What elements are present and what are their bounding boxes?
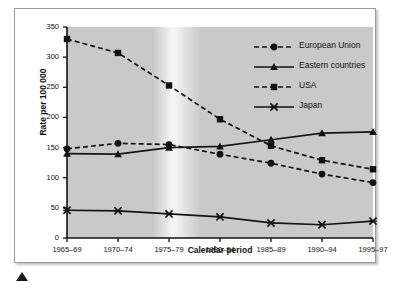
y-axis-tick-label: 200 [33, 112, 59, 121]
legend-marker-icon [253, 80, 295, 94]
legend-marker-icon [253, 60, 295, 74]
y-axis-title: Rate per 100 000 [38, 54, 48, 150]
x-axis-tick-label: 1990–94 [297, 245, 347, 254]
y-axis-tick-label: 350 [33, 22, 59, 31]
legend-item-japan[interactable]: Japan [253, 99, 373, 115]
legend-item-eastern-countries[interactable]: Eastern countries [253, 59, 373, 75]
legend-marker-icon [253, 40, 295, 54]
y-axis-tick-label: 250 [33, 82, 59, 91]
y-axis-tick-label: 0 [33, 233, 59, 242]
legend-item-european-union[interactable]: European Union [253, 39, 373, 55]
legend-label: USA [299, 80, 316, 90]
legend-marker-icon [253, 100, 295, 114]
plot-wrapper: Rate per 100 000 Calendar period 0501001… [15, 9, 377, 264]
x-axis-tick-label: 1965–69 [42, 245, 92, 254]
y-axis-tick-label: 50 [33, 203, 59, 212]
legend-label: European Union [299, 40, 360, 50]
x-axis-tick-label: 1980–84 [195, 245, 245, 254]
legend-item-usa[interactable]: USA [253, 79, 373, 95]
series-japan [63, 207, 377, 229]
y-axis-tick-label: 150 [33, 143, 59, 152]
y-axis-tick-label: 100 [33, 173, 59, 182]
figure-container: Rate per 100 000 Calendar period 0501001… [0, 0, 397, 293]
up-triangle-marker-icon [16, 272, 28, 281]
y-axis-tick-label: 300 [33, 52, 59, 61]
x-axis-tick-label: 1970–74 [93, 245, 143, 254]
x-axis-tick-label: 1985–89 [246, 245, 296, 254]
x-axis-tick-label: 1975–79 [144, 245, 194, 254]
chart-frame: Rate per 100 000 Calendar period 0501001… [14, 8, 376, 263]
x-axis-tick-label: 1995–97 [348, 245, 397, 254]
legend-label: Eastern countries [299, 60, 365, 70]
legend-label: Japan [299, 100, 322, 110]
